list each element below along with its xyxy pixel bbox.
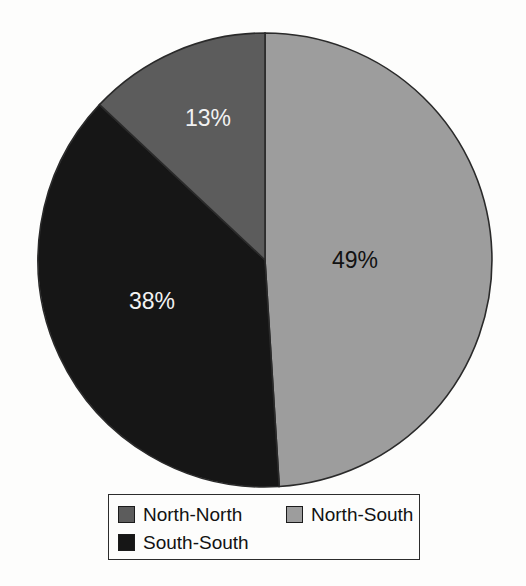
pie-slice-value-label: 49% [332, 247, 378, 273]
legend-swatch-icon [286, 506, 303, 523]
pie-svg: 49%38%13% [0, 0, 526, 500]
chart-legend: North-North North-South South-South [108, 494, 420, 560]
pie-plot-area: 49%38%13% [0, 0, 526, 500]
legend-swatch-icon [118, 534, 135, 551]
pie-chart: 49%38%13% North-North North-South South-… [0, 0, 526, 586]
legend-item-south-south[interactable]: South-South [118, 528, 286, 556]
pie-slices-group [38, 33, 492, 487]
legend-swatch-icon [118, 506, 135, 523]
legend-item-north-south[interactable]: North-South [286, 500, 413, 528]
pie-slice-value-label: 38% [129, 288, 175, 314]
legend-item-north-north[interactable]: North-North [118, 500, 286, 528]
pie-slice-value-label: 13% [185, 105, 231, 131]
legend-label: North-South [311, 505, 413, 524]
legend-label: North-North [143, 505, 242, 524]
pie-slice-north-south[interactable] [265, 33, 492, 487]
legend-row: North-North North-South [118, 500, 419, 528]
legend-label: South-South [143, 533, 249, 552]
legend-row: South-South [118, 528, 419, 556]
